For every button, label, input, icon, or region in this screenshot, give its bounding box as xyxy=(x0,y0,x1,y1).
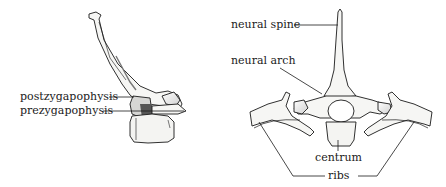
label-neural-arch: neural arch xyxy=(231,55,296,67)
label-centrum: centrum xyxy=(315,152,362,164)
label-prezygapophysis: prezygapophysis xyxy=(20,105,113,117)
label-neural-spine: neural spine xyxy=(231,19,300,31)
lateral-vertebra-drawing xyxy=(89,12,186,143)
label-postzygapophysis: postzygapophysis xyxy=(20,91,118,103)
label-ribs: ribs xyxy=(328,170,349,182)
